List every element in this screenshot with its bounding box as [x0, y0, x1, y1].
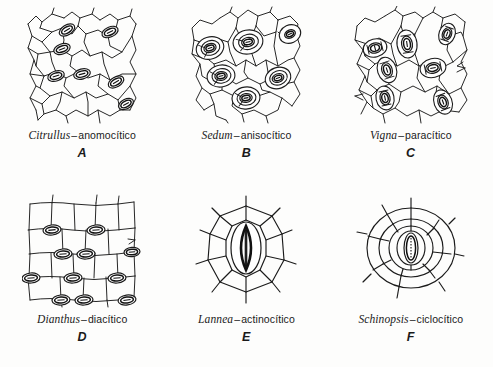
caption-dash-e: – — [233, 313, 241, 325]
stomata-type-d: diacítico — [88, 313, 127, 325]
caption-c: Vigna–paracítico — [370, 129, 452, 142]
panel-e: Lannea–actinocítico E — [164, 184, 328, 367]
panel-c: Vigna–paracítico C — [329, 0, 493, 184]
panel-a: Citrullus–anomocítico A — [0, 0, 164, 184]
stomata-actinocytic-diagram — [186, 190, 306, 308]
caption-b: Sedum–anisocítico — [202, 129, 292, 142]
stoma-central-e — [231, 222, 261, 274]
panel-f: Schinopsis–ciclocítico F — [329, 184, 493, 367]
genus-name-e: Lannea — [198, 313, 233, 325]
stomata-paracytic-diagram — [351, 6, 471, 124]
panel-letter-a: A — [77, 146, 87, 160]
stomata-diacytic-diagram — [22, 190, 142, 308]
genus-name-b: Sedum — [202, 129, 233, 141]
panel-b: Sedum–anisocítico B — [164, 0, 328, 184]
stomata-anomocytic-diagram — [22, 6, 142, 124]
stomata-type-f: ciclocítico — [417, 313, 464, 325]
panel-letter-c: C — [406, 146, 416, 160]
caption-d: Dianthus–diacítico — [37, 313, 127, 326]
stoma-group-c — [361, 21, 458, 117]
genus-name-f: Schinopsis — [358, 313, 408, 325]
genus-name-a: Citrullus — [28, 129, 70, 141]
panel-d: Dianthus–diacítico D — [0, 184, 164, 367]
caption-dash-d: – — [80, 313, 88, 325]
stoma-group-d — [22, 224, 140, 306]
caption-dash-f: – — [409, 313, 417, 325]
stomata-type-a: anomocítico — [78, 129, 136, 141]
genus-name-d: Dianthus — [37, 313, 80, 325]
caption-f: Schinopsis–ciclocítico — [358, 313, 463, 326]
stomata-cyclocytic-diagram — [351, 190, 471, 308]
panel-letter-f: F — [407, 330, 415, 344]
caption-dash-c: – — [397, 129, 405, 141]
stomata-type-c: paracítico — [405, 129, 452, 141]
stomata-types-figure: Citrullus–anomocítico A — [0, 0, 493, 367]
caption-a: Citrullus–anomocítico — [28, 129, 135, 142]
stomata-type-e: actinocítico — [241, 313, 295, 325]
caption-dash-b: – — [233, 129, 241, 141]
stomata-anisocytic-diagram — [186, 6, 306, 124]
genus-name-c: Vigna — [370, 129, 397, 141]
stoma-central-f — [404, 233, 418, 263]
panel-letter-d: D — [77, 330, 87, 344]
stoma-group-b — [194, 21, 304, 111]
stomata-type-b: anisocítico — [241, 129, 292, 141]
caption-e: Lannea–actinocítico — [198, 313, 295, 326]
panel-letter-b: B — [242, 146, 252, 160]
stoma-group-a — [47, 21, 136, 112]
panel-letter-e: E — [242, 330, 251, 344]
caption-dash-a: – — [70, 129, 78, 141]
